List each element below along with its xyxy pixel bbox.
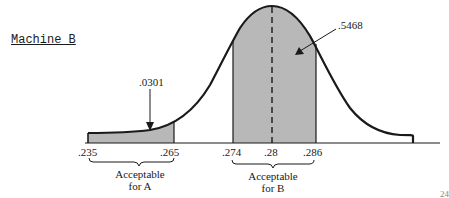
caption-b-line1: Acceptable (237, 170, 309, 182)
caption-b-line2: for B (237, 182, 309, 194)
caption-a-line1: Acceptable (104, 168, 176, 180)
brace-acceptable-b (232, 160, 314, 168)
left-tail-probability: .0301 (139, 77, 164, 88)
caption-a-line2: for A (104, 180, 176, 192)
brace-acceptable-a (89, 158, 174, 166)
page-number-fragment: 24 (440, 190, 449, 198)
center-probability: .5468 (338, 20, 363, 31)
normal-curve-figure (0, 0, 449, 198)
tick-label-274: .274 (222, 147, 241, 158)
tick-label-28: .28 (264, 147, 278, 158)
tick-label-265: .265 (160, 147, 179, 158)
caption-acceptable-b: Acceptable for B (237, 170, 309, 194)
figure-title: Machine B (11, 34, 76, 46)
tick-label-286: .286 (303, 147, 322, 158)
caption-acceptable-a: Acceptable for A (104, 168, 176, 192)
tick-label-235: .235 (78, 147, 97, 158)
